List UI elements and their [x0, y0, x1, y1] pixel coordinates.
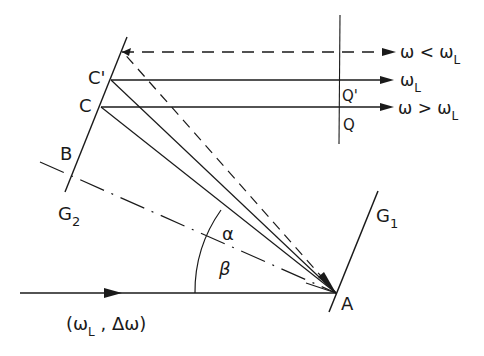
output-arrowhead-dashed-icon	[382, 48, 396, 56]
label-output-dashed: ω < ωL	[400, 42, 461, 67]
top-ray-arrowhead-at-g2-icon	[122, 48, 131, 56]
grating-g1-line	[329, 191, 378, 312]
ray-a-to-top-dashed	[122, 51, 336, 293]
label-q-prime: Q'	[342, 87, 358, 105]
reference-plane-q	[339, 15, 340, 144]
output-arrowhead-omega-l-icon	[380, 76, 394, 84]
label-beta: β	[218, 258, 231, 279]
grating-g2-line	[65, 37, 127, 192]
label-a: A	[341, 293, 354, 314]
label-c-prime: C'	[88, 67, 106, 88]
normal-line-b-to-a	[40, 162, 336, 293]
label-alpha: α	[222, 223, 234, 244]
label-input-beam: (ωL , Δω)	[66, 313, 146, 339]
label-b: B	[60, 143, 72, 164]
label-output-omega-gt: ω > ωL	[398, 98, 459, 123]
label-q: Q	[343, 116, 355, 134]
label-g1: G1	[376, 205, 398, 231]
output-arrowhead-omega-gt-icon	[380, 103, 394, 111]
label-g2: G2	[58, 203, 80, 229]
diagram-canvas: C' C B G2 G1 A Q' Q α β ω < ωL ωL ω > ωL…	[0, 0, 484, 356]
input-beam-arrowhead-icon	[104, 288, 122, 298]
label-c: C	[79, 95, 92, 116]
label-output-omega-l: ωL	[400, 70, 421, 95]
angle-arc	[195, 210, 221, 293]
